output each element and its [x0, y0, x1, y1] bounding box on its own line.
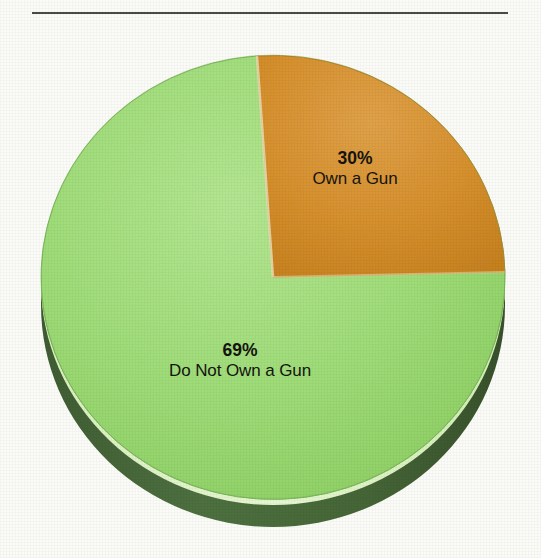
chart-canvas: 30% Own a Gun 69% Do Not Own a Gun [0, 0, 541, 558]
slice-label-own-a-gun: 30% Own a Gun [255, 148, 455, 189]
slice-label-do-not-own-a-gun: 69% Do Not Own a Gun [130, 340, 350, 381]
slice-category-own-a-gun: Own a Gun [255, 169, 455, 189]
pie-top-faces [41, 55, 505, 499]
slice-category-do-not-own-a-gun: Do Not Own a Gun [130, 361, 350, 381]
pie-chart-svg [0, 0, 541, 558]
pie-chart-figure: 30% Own a Gun 69% Do Not Own a Gun [0, 0, 541, 558]
slice-percent-do-not-own-a-gun: 69% [130, 340, 350, 361]
slice-percent-own-a-gun: 30% [255, 148, 455, 169]
